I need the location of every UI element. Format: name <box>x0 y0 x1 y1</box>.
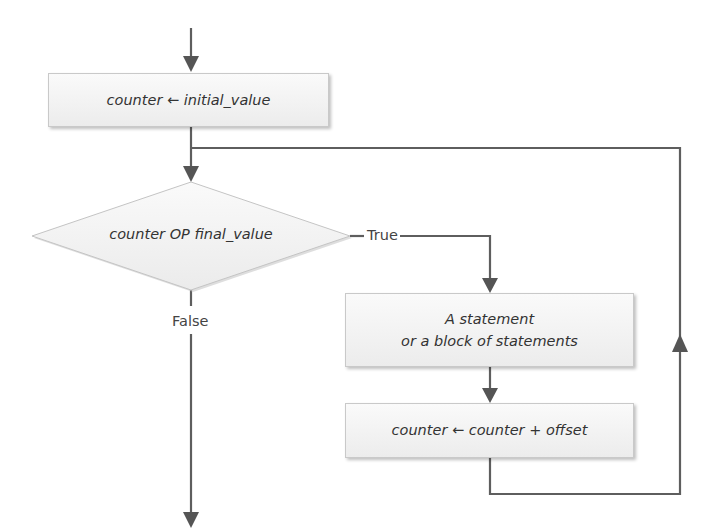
condition-text: counter OP final_value <box>60 226 322 242</box>
init-box: counter ← initial_value <box>48 73 329 127</box>
arrowhead-up-icon <box>672 334 688 352</box>
arrowhead-icon <box>482 278 498 293</box>
body-line-2: or a block of statements <box>401 330 578 352</box>
false-label: False <box>171 313 209 329</box>
arrowhead-icon <box>183 166 199 182</box>
arrowhead-icon <box>482 388 498 403</box>
body-box: A statement or a block of statements <box>345 293 634 367</box>
init-text: counter ← initial_value <box>107 89 271 111</box>
update-box: counter ← counter + offset <box>345 403 634 458</box>
body-line-1: A statement <box>445 308 534 330</box>
true-branch-line <box>400 236 490 282</box>
arrowhead-icon <box>183 512 199 528</box>
arrowhead-icon <box>183 56 199 72</box>
true-label: True <box>366 227 399 243</box>
update-text: counter ← counter + offset <box>392 419 588 441</box>
